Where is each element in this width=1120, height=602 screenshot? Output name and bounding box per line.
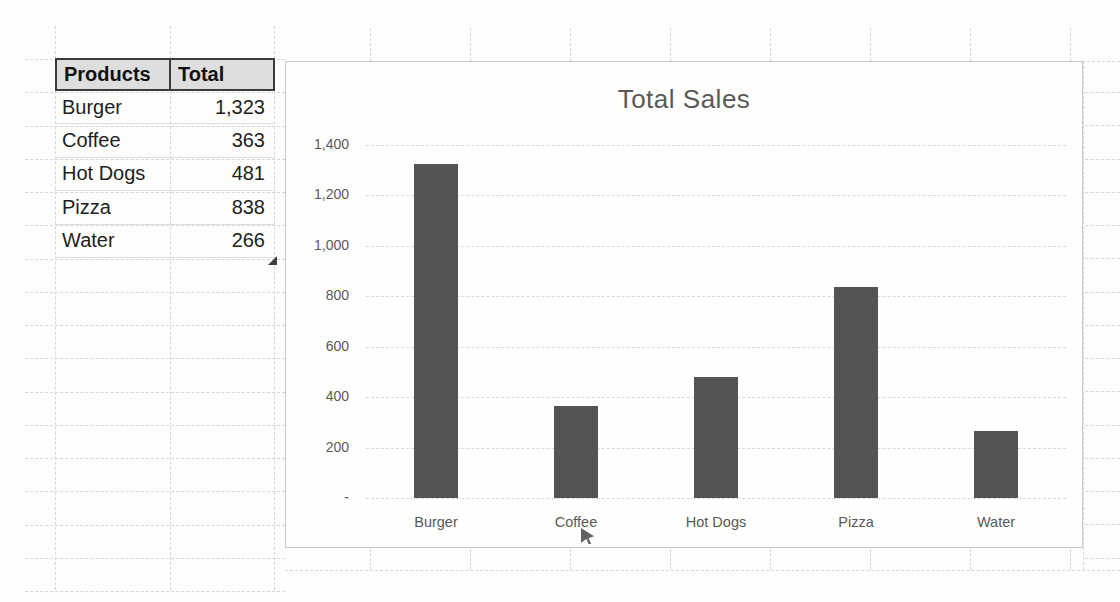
gridline-vertical <box>570 549 571 570</box>
gridline-vertical <box>970 549 971 570</box>
table-row: Water266 <box>55 225 275 258</box>
product-cell[interactable]: Pizza <box>55 191 169 223</box>
gridline-horizontal <box>1085 391 1120 392</box>
bar-hot-dogs[interactable] <box>694 377 738 498</box>
gridline-horizontal <box>25 358 285 359</box>
table-row: Hot Dogs481 <box>55 158 275 191</box>
gridline-horizontal <box>25 491 285 492</box>
gridline-horizontal <box>1085 159 1120 160</box>
gridline-horizontal <box>1085 125 1120 126</box>
gridline-horizontal <box>1085 292 1120 293</box>
total-sales-chart[interactable]: Total Sales -2004006008001,0001,2001,400… <box>285 61 1083 548</box>
gridline-horizontal <box>25 591 285 592</box>
gridline-vertical <box>370 549 371 570</box>
gridline-horizontal <box>25 558 285 559</box>
bar-pizza[interactable] <box>834 287 878 498</box>
gridline-vertical <box>1083 61 1084 570</box>
product-cell[interactable]: Coffee <box>55 124 169 156</box>
gridline-horizontal <box>25 292 285 293</box>
x-axis-label-pizza: Pizza <box>786 514 926 536</box>
products-table: Products Total Burger1,323Coffee363Hot D… <box>55 58 275 258</box>
x-axis-label-water: Water <box>926 514 1066 536</box>
gridline-vertical <box>770 28 771 61</box>
spreadsheet-canvas: Products Total Burger1,323Coffee363Hot D… <box>0 0 1120 602</box>
table-row: Burger1,323 <box>55 91 275 124</box>
gridline-horizontal <box>25 525 285 526</box>
table-row: Coffee363 <box>55 124 275 157</box>
gridline-horizontal <box>1085 92 1120 93</box>
product-cell[interactable]: Hot Dogs <box>55 158 169 190</box>
gridline-vertical <box>570 28 571 61</box>
gridline-vertical <box>770 549 771 570</box>
chart-gridline <box>366 296 1066 297</box>
gridline-vertical <box>370 28 371 61</box>
bar-burger[interactable] <box>414 164 458 498</box>
gridline-horizontal <box>1085 258 1120 259</box>
y-axis-tick-label: 800 <box>286 287 349 305</box>
y-axis-tick-label: 200 <box>286 439 349 457</box>
product-cell[interactable]: Water <box>55 225 169 257</box>
table-header-row: Products Total <box>55 58 275 91</box>
total-cell[interactable]: 481 <box>169 158 275 190</box>
gridline-horizontal <box>25 259 285 260</box>
total-cell[interactable]: 266 <box>169 225 275 257</box>
chart-gridline <box>366 145 1066 146</box>
gridline-vertical <box>870 28 871 61</box>
chart-gridline <box>366 498 1066 499</box>
gridline-vertical <box>470 549 471 570</box>
table-header-total[interactable]: Total <box>171 60 273 89</box>
table-header-products[interactable]: Products <box>57 60 171 89</box>
gridline-horizontal <box>1085 425 1120 426</box>
x-axis-label-hot-dogs: Hot Dogs <box>646 514 786 536</box>
gridline-horizontal <box>1085 524 1120 525</box>
chart-title[interactable]: Total Sales <box>286 84 1082 115</box>
gridline-horizontal <box>285 570 1120 571</box>
y-axis-tick-label: 1,000 <box>286 237 349 255</box>
total-cell[interactable]: 363 <box>169 124 275 156</box>
gridline-horizontal <box>25 325 285 326</box>
gridline-vertical <box>870 549 871 570</box>
y-axis-tick-label: 600 <box>286 338 349 356</box>
gridline-vertical <box>970 28 971 61</box>
gridline-horizontal <box>25 392 285 393</box>
gridline-horizontal <box>1085 491 1120 492</box>
gridline-horizontal <box>1085 192 1120 193</box>
gridline-horizontal <box>1085 358 1120 359</box>
gridline-vertical <box>670 549 671 570</box>
gridline-vertical <box>470 28 471 61</box>
gridline-horizontal <box>1085 458 1120 459</box>
x-axis-label-burger: Burger <box>366 514 506 536</box>
total-cell[interactable]: 838 <box>169 191 275 223</box>
gridline-horizontal <box>25 458 285 459</box>
table-body: Burger1,323Coffee363Hot Dogs481Pizza838W… <box>55 91 275 258</box>
gridline-vertical <box>1070 549 1071 570</box>
bar-coffee[interactable] <box>554 406 598 498</box>
chart-gridline <box>366 195 1066 196</box>
y-axis-tick-label: 1,400 <box>286 136 349 154</box>
bar-water[interactable] <box>974 431 1018 498</box>
gridline-horizontal <box>1085 558 1120 559</box>
gridline-vertical <box>670 28 671 61</box>
gridline-horizontal <box>1085 325 1120 326</box>
y-axis-tick-label: 400 <box>286 388 349 406</box>
y-axis-tick-label: - <box>286 489 349 507</box>
gridline-vertical <box>1070 28 1071 61</box>
x-axis-label-coffee: Coffee <box>506 514 646 536</box>
table-row: Pizza838 <box>55 191 275 224</box>
y-axis-tick-label: 1,200 <box>286 186 349 204</box>
gridline-horizontal <box>25 425 285 426</box>
product-cell[interactable]: Burger <box>55 91 169 123</box>
total-cell[interactable]: 1,323 <box>169 91 275 123</box>
plot-area <box>366 145 1066 498</box>
chart-gridline <box>366 347 1066 348</box>
gridline-horizontal <box>1085 225 1120 226</box>
chart-gridline <box>366 246 1066 247</box>
